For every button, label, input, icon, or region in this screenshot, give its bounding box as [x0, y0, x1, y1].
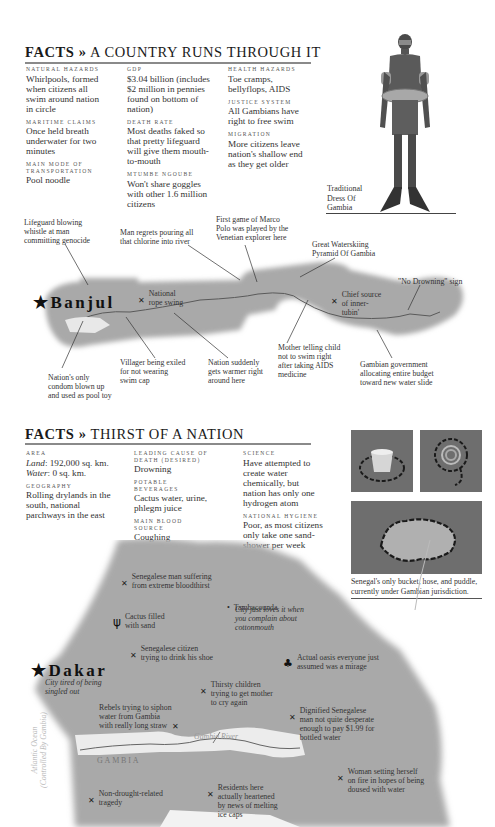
fact-label: Science: [243, 450, 323, 457]
annotation-text: Thirsty children trying to get mother to…: [211, 680, 273, 707]
fact-value: Have attempted to create water chemicall…: [243, 458, 323, 508]
hose-icon: [420, 430, 482, 492]
annotation-rebels: Rebels trying to siphon water from Gambi…: [99, 703, 172, 730]
fact-label: Main Blood Source: [134, 518, 214, 531]
annotation-water-slide: Gambian government allocating entire bud…: [360, 360, 434, 387]
annotation-lifeguard: Lifeguard blowing whistle at man committ…: [24, 218, 90, 245]
annotation-marco-polo: First game of Marco Polo was played by t…: [216, 215, 288, 242]
capital-label: Banjul: [51, 293, 115, 312]
annotation-text: Actual oasis everyone just assumed was a…: [297, 653, 379, 671]
banjul-capital: ★Banjul: [33, 292, 115, 313]
fact-value-land: Land: 192,000 sq. km.: [26, 458, 116, 468]
annotation-oasis: ♣ Actual oasis everyone just assumed was…: [283, 653, 379, 671]
x-marker-icon: ✕: [337, 774, 344, 783]
x-marker-icon: ✕: [172, 722, 179, 731]
x-marker-icon: ✕: [200, 687, 207, 696]
x-marker-icon: ✕: [289, 713, 296, 722]
fact-label: Potable Beverages: [134, 479, 214, 492]
country-label: GAMBIA: [97, 756, 140, 765]
annotation-chlorine: Man regrets pouring all that chlorine in…: [120, 228, 193, 246]
annotation-children: ✕ Thirsty children trying to get mother …: [200, 680, 273, 707]
annotation-text: Non-drought-related tragedy: [99, 789, 163, 807]
river-label: Gambia River: [194, 732, 238, 741]
x-marker-icon: ✕: [207, 790, 214, 799]
annotation-residents: ✕ Residents here actually heartened by n…: [207, 783, 278, 819]
annotation-pyramid: Great Waterskiing Pyramid Of Gambia: [312, 240, 375, 258]
fact-value: Drowning: [134, 464, 214, 474]
x-marker-icon: ✕: [121, 579, 128, 588]
city-dot-icon: •: [227, 603, 230, 612]
city-note: City just loves it when you complain abo…: [235, 605, 304, 632]
annotation-villager: Villager being exiled for not wearing sw…: [120, 358, 185, 385]
annotation-cactus: ψ Cactus filled with sand: [113, 612, 165, 630]
section-rule: [25, 443, 311, 445]
bucket-photo: [351, 430, 413, 492]
annotation-text: Chief source of inner- tubin': [342, 290, 382, 317]
annotation-woman: ✕ Woman setting herself on fire in hopes…: [337, 767, 424, 794]
facts-column-2: Leading Cause of Death (Desired) Drownin…: [134, 450, 214, 542]
annotation-text: National rope swing: [149, 289, 183, 307]
ocean-label: Atlantic Ocean (Controlled By Gambia): [30, 710, 48, 790]
capital-note: City tired of being singled out: [45, 678, 102, 696]
annotation-bloodthirst: ✕ Senegalese man suffering from extreme …: [121, 572, 212, 590]
hose-photo: [420, 430, 482, 492]
fact-value-water: Water: 0 sq. km.: [26, 468, 116, 478]
cactus-icon: ψ: [113, 615, 121, 629]
fact-label: Area: [26, 450, 116, 457]
fact-label: Geography: [26, 483, 116, 490]
bucket-icon: [351, 430, 413, 492]
section-title-thirst: FACTS » THIRST OF A NATION: [25, 426, 244, 443]
annotation-rope-swing: ✕ National rope swing: [138, 289, 183, 307]
star-icon: ★: [33, 293, 51, 312]
annotation-mother: Mother telling child not to swim right a…: [278, 343, 340, 379]
fact-value: Rolling drylands in the south, national …: [26, 490, 116, 520]
annotation-text: Woman setting herself on fire in hopes o…: [348, 767, 424, 794]
annotation-tragedy: ✕ Non-drought-related tragedy: [88, 789, 163, 807]
annotation-inner-tubin: ✕ Chief source of inner- tubin': [331, 290, 381, 317]
annotation-shoe: ✕ Senegalese citizen trying to drink his…: [130, 644, 213, 662]
fact-label: Leading Cause of Death (Desired): [134, 450, 214, 463]
annotation-text: Dignified Senegalese man not quite despe…: [300, 706, 375, 742]
annotation-condom: Nation's only condom blown up and used a…: [48, 373, 112, 400]
facts-column-3: Science Have attempted to create water c…: [243, 450, 323, 550]
annotation-text: Rebels trying to siphon water from Gambi…: [99, 703, 172, 730]
annotation-text: Senegalese citizen trying to drink his s…: [141, 644, 213, 662]
palm-tree-icon: ♣: [283, 657, 293, 670]
annotation-text: Senegalese man suffering from extreme bl…: [132, 572, 212, 590]
facts-column-1: Area Land: 192,000 sq. km. Water: 0 sq. …: [26, 450, 116, 520]
annotation-no-drowning: "No Drowning" sign: [398, 277, 462, 286]
annotation-warmer: Nation suddenly gets warmer right around…: [208, 358, 263, 385]
gambia-map: [0, 0, 495, 400]
x-marker-icon: ✕: [130, 651, 137, 660]
annotation-text: Residents here actually heartened by new…: [218, 783, 278, 819]
x-marker-icon: ✕: [331, 297, 338, 306]
fact-value: Cactus water, urine, phlegm juice: [134, 493, 214, 513]
x-marker-icon: ✕: [88, 796, 95, 805]
annotation-dignified: ✕ Dignified Senegalese man not quite des…: [289, 706, 374, 742]
x-marker-icon: ✕: [138, 296, 145, 305]
annotation-text: Cactus filled with sand: [125, 612, 165, 630]
fact-label: National Hygiene: [243, 513, 323, 520]
